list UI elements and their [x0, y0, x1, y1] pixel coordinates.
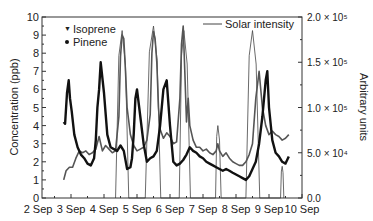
y-axis-right-title: Arbitrary units: [358, 73, 370, 141]
x-tick-label: 9 Sep: [255, 203, 284, 215]
y-axis-right: 0.05.0 × 10⁴1.0 × 10⁵1.5 × 10⁵2.0 × 10⁵: [298, 12, 348, 204]
y-tick-label: 2: [33, 156, 39, 168]
y-tick-label: 8: [33, 47, 39, 59]
x-tick-label: 10 Sep: [285, 203, 320, 215]
x-tick-label: 2 Sep: [24, 203, 53, 215]
x-tick-label: 3 Sep: [57, 203, 86, 215]
x-axis: 2 Sep3 Sep4 Sep5 Sep6 Sep7 Sep8 Sep9 Sep…: [24, 194, 320, 215]
legend-left: ▼ Isoprene Pinene: [64, 23, 116, 48]
x-tick-label: 7 Sep: [189, 203, 218, 215]
pinene-marker-icon: [65, 40, 69, 44]
legend-solar-label: Solar intensity: [225, 18, 295, 30]
y-tick-label: 0: [33, 192, 39, 204]
y2-tick-label: 5.0 × 10⁴: [307, 148, 348, 159]
y-tick-label: 4: [33, 120, 39, 132]
y-tick-label: 1: [33, 174, 39, 186]
chart: 2 Sep3 Sep4 Sep5 Sep6 Sep7 Sep8 Sep9 Sep…: [0, 0, 373, 221]
legend-isoprene-label: Isoprene: [73, 23, 116, 35]
isoprene-marker-icon: ▼: [64, 25, 71, 32]
plot-lines: [64, 26, 289, 198]
legend-pinene-label: Pinene: [73, 36, 107, 48]
y-axis-left-title: Concentration (ppb): [8, 58, 20, 155]
y-tick-label: 3: [33, 138, 39, 150]
series-pinene: [64, 62, 289, 180]
y-tick-label: 6: [33, 83, 39, 95]
y2-tick-label: 0.0: [307, 193, 321, 204]
y-axis-left: 012345678910: [27, 11, 46, 204]
x-tick-label: 4 Sep: [90, 203, 119, 215]
x-tick-label: 6 Sep: [156, 203, 185, 215]
y-tick-label: 10: [27, 11, 39, 23]
y-tick-label: 5: [33, 102, 39, 114]
legend-right: Solar intensity: [203, 18, 295, 30]
x-tick-label: 8 Sep: [222, 203, 251, 215]
y2-tick-label: 2.0 × 10⁵: [307, 12, 348, 23]
y-tick-label: 7: [33, 65, 39, 77]
x-tick-label: 5 Sep: [123, 203, 152, 215]
y-tick-label: 9: [33, 29, 39, 41]
y2-tick-label: 1.0 × 10⁵: [307, 103, 348, 114]
y2-tick-label: 1.5 × 10⁵: [307, 57, 348, 68]
